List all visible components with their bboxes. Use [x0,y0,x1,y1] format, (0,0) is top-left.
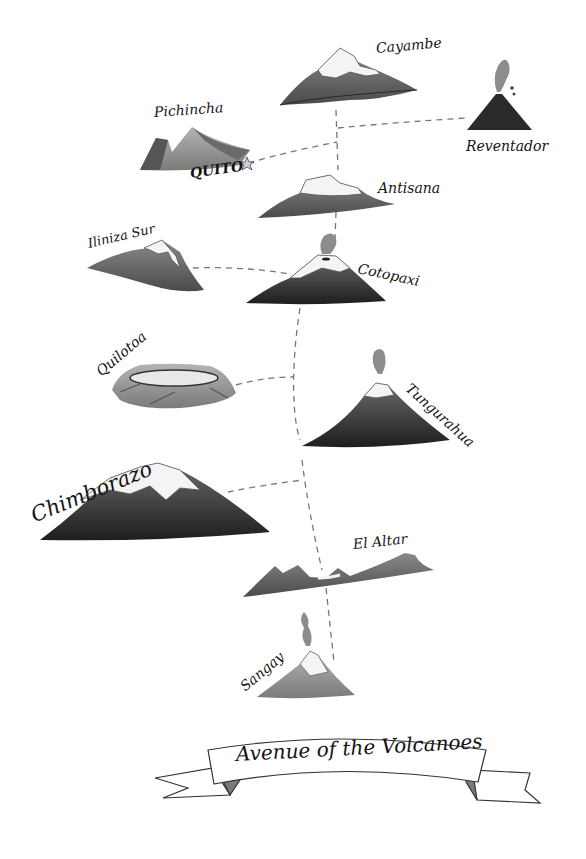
volcano-map [0,0,586,859]
volcano-el-altar [243,553,434,597]
volcano-antisana [258,175,395,218]
volcano-cayambe [280,48,417,105]
volcano-iliniza-sur [87,240,204,291]
volcano-reventador [467,60,532,130]
volcano-quilotoa [112,364,236,409]
label-reventador: Reventador [466,138,548,154]
label-antisana: Antisana [378,180,440,196]
